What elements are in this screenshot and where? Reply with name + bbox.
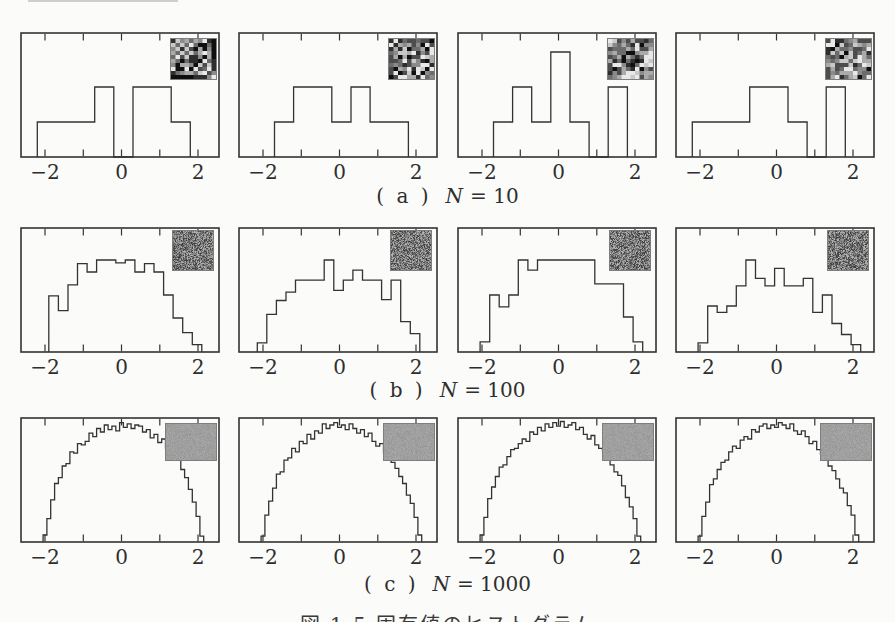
- histogram-outline: [49, 260, 202, 352]
- caption-b-value: = 100: [464, 378, 525, 402]
- axis-tick-label: 2: [628, 545, 641, 567]
- axis-tick-label: 0: [552, 160, 565, 182]
- histogram-outline: [698, 260, 861, 352]
- histogram-row-b: −202−202−202−202: [0, 227, 895, 377]
- axis-tick-label: −2: [467, 160, 496, 182]
- axis-tick-label: 2: [410, 355, 423, 377]
- caption-a: ( a )N= 10: [0, 184, 895, 208]
- histogram-panel-b2: −202: [238, 227, 438, 377]
- caption-a-variable: N: [446, 184, 464, 208]
- caption-a-index: ( a ): [376, 184, 431, 208]
- histogram-panel-c1: −202: [20, 417, 220, 567]
- caption-b-variable: N: [440, 378, 458, 402]
- caption-b: ( b )N= 100: [0, 378, 895, 402]
- histogram-row-c: −202−202−202−202: [0, 417, 895, 567]
- histogram-outline: [480, 260, 643, 352]
- caption-c-value: = 1000: [457, 572, 531, 596]
- caption-c: ( c )N= 1000: [0, 572, 895, 596]
- axis-tick-label: −2: [249, 355, 278, 377]
- axis-tick-label: 2: [192, 355, 205, 377]
- axis-tick-label: −2: [30, 160, 59, 182]
- axis-tick-label: 0: [115, 545, 128, 567]
- axis-tick-label: 2: [847, 545, 860, 567]
- axis-tick-label: −2: [685, 545, 714, 567]
- histogram-outline: [692, 87, 845, 157]
- axis-tick-label: 0: [770, 355, 783, 377]
- histogram-row-a: −202−202−202−202: [0, 32, 895, 182]
- histogram-outline: [258, 260, 421, 352]
- random-matrix-inset: [388, 38, 435, 80]
- axis-tick-label: −2: [467, 545, 496, 567]
- cropped-text-remnant: [28, 0, 178, 2]
- axis-tick-label: 2: [410, 545, 423, 567]
- axis-tick-label: 0: [115, 160, 128, 182]
- axis-tick-label: −2: [685, 355, 714, 377]
- caption-b-index: ( b ): [370, 378, 426, 402]
- random-matrix-inset: [165, 423, 217, 461]
- axis-tick-label: 2: [192, 545, 205, 567]
- axis-tick-label: 0: [333, 160, 346, 182]
- random-matrix-inset: [383, 423, 435, 461]
- histogram-panel-b3: −202: [457, 227, 657, 377]
- random-matrix-inset: [827, 230, 869, 271]
- axis-tick-label: −2: [685, 160, 714, 182]
- axis-tick-label: 2: [410, 160, 423, 182]
- histogram-outline: [37, 87, 190, 157]
- caption-a-value: = 10: [470, 184, 519, 208]
- random-matrix-inset: [820, 423, 872, 461]
- caption-c-index: ( c ): [364, 572, 419, 596]
- axis-tick-label: −2: [249, 160, 278, 182]
- axis-tick-label: 2: [192, 160, 205, 182]
- histogram-panel-c4: −202: [675, 417, 875, 567]
- axis-tick-label: 2: [628, 160, 641, 182]
- axis-tick-label: 0: [115, 355, 128, 377]
- random-matrix-inset: [602, 423, 654, 461]
- histogram-panel-c2: −202: [238, 417, 438, 567]
- histogram-panel-a3: −202: [457, 32, 657, 182]
- histogram-panel-a2: −202: [238, 32, 438, 182]
- figure-caption-cropped: 図 1.5 固有値のヒストグラム: [0, 609, 895, 622]
- histogram-outline: [275, 87, 409, 157]
- caption-c-variable: N: [433, 572, 451, 596]
- histogram-panel-b1: −202: [20, 227, 220, 377]
- axis-tick-label: 0: [552, 545, 565, 567]
- figure-root: −202−202−202−202 ( a )N= 10 −202−202−202…: [0, 0, 895, 622]
- random-matrix-inset: [607, 38, 654, 80]
- axis-tick-label: 0: [333, 545, 346, 567]
- random-matrix-inset: [170, 38, 217, 80]
- random-matrix-inset: [172, 230, 214, 271]
- axis-tick-label: 0: [333, 355, 346, 377]
- axis-tick-label: 2: [847, 160, 860, 182]
- axis-tick-label: −2: [249, 545, 278, 567]
- random-matrix-inset: [609, 230, 651, 271]
- axis-tick-label: −2: [30, 545, 59, 567]
- axis-tick-label: 0: [552, 355, 565, 377]
- random-matrix-inset: [825, 38, 872, 80]
- axis-tick-label: 0: [770, 160, 783, 182]
- axis-tick-label: −2: [30, 355, 59, 377]
- histogram-panel-c3: −202: [457, 417, 657, 567]
- histogram-panel-b4: −202: [675, 227, 875, 377]
- random-matrix-inset: [390, 230, 432, 271]
- axis-tick-label: 2: [628, 355, 641, 377]
- axis-tick-label: −2: [467, 355, 496, 377]
- axis-tick-label: 0: [770, 545, 783, 567]
- histogram-panel-a4: −202: [675, 32, 875, 182]
- histogram-panel-a1: −202: [20, 32, 220, 182]
- axis-tick-label: 2: [847, 355, 860, 377]
